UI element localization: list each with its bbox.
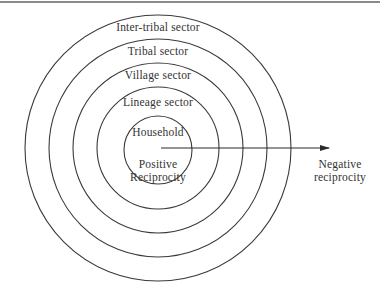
label-negative-reciprocity-line2: reciprocity — [303, 171, 377, 184]
label-positive-reciprocity-line1: Positive — [118, 158, 198, 171]
label-inter-tribal-sector: Inter-tribal sector — [108, 21, 208, 34]
label-village-sector: Village sector — [108, 69, 208, 82]
label-lineage-sector: Lineage sector — [108, 96, 208, 109]
label-tribal-sector: Tribal sector — [108, 45, 208, 58]
label-negative-reciprocity-line1: Negative — [303, 158, 377, 171]
label-positive-reciprocity-line2: Reciprocity — [118, 171, 198, 184]
label-household: Household — [118, 126, 198, 139]
reciprocity-sectors-diagram: Inter-tribal sector Tribal sector Villag… — [0, 0, 380, 294]
